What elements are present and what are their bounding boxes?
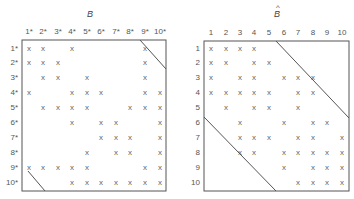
nonzero-entry: x [238,73,242,82]
nonzero-entry: x [158,163,162,172]
row-label: 1 [196,44,201,53]
nonzero-entry: x [267,58,271,67]
nonzero-entry: x [238,88,242,97]
nonzero-entry: x [267,103,271,112]
nonzero-entry: x [158,178,162,187]
nonzero-entry: x [56,103,60,112]
nonzero-entry: x [282,118,286,127]
nonzero-entry: x [70,44,74,53]
nonzero-entry: x [267,133,271,142]
nonzero-entry: x [70,88,74,97]
nonzero-entry: x [311,133,315,142]
nonzero-entry: x [85,148,89,157]
column-label: 6* [97,27,105,36]
column-label: 7* [112,27,120,36]
nonzero-entry: x [296,73,300,82]
row-label: 9 [196,163,201,172]
nonzero-entry: x [41,163,45,172]
nonzero-entry: x [252,103,256,112]
nonzero-entry: x [238,118,242,127]
row-label: 5 [196,103,201,112]
nonzero-entry: x [85,103,89,112]
nonzero-entry: x [128,103,132,112]
nonzero-entry: x [325,178,329,187]
row-label: 2* [10,58,18,67]
matrix-b: B1*2*3*4*5*6*7*8*9*10*1*2*3*4*5*6*7*8*9*… [6,9,166,191]
nonzero-entry: x [99,133,103,142]
nonzero-entry: x [311,148,315,157]
nonzero-entry: x [143,88,147,97]
nonzero-entry: x [128,148,132,157]
nonzero-entry: x [224,44,228,53]
matrix-title: B [87,9,93,19]
nonzero-entry: x [238,133,242,142]
row-label: 7* [10,133,18,142]
band-boundary-line [28,171,45,191]
nonzero-entry: x [282,73,286,82]
nonzero-entry: x [311,118,315,127]
nonzero-entry: x [224,103,228,112]
nonzero-entry: x [224,58,228,67]
row-label: 3 [196,73,201,82]
hat-accent: ^ [276,3,280,12]
nonzero-entry: x [325,148,329,157]
column-label: 4* [68,27,76,36]
nonzero-entry: x [70,103,74,112]
nonzero-entry: x [41,44,45,53]
nonzero-entry: x [114,118,118,127]
nonzero-entry: x [209,73,213,82]
row-label: 3* [10,73,18,82]
nonzero-entry: x [99,118,103,127]
column-label: 3 [238,28,243,37]
row-label: 1* [10,44,18,53]
row-label: 10 [191,178,200,187]
nonzero-entry: x [296,103,300,112]
nonzero-entry: x [128,133,132,142]
nonzero-entry: x [252,88,256,97]
nonzero-entry: x [158,103,162,112]
nonzero-entry: x [70,163,74,172]
nonzero-entry: x [143,163,147,172]
row-label: 6* [10,118,18,127]
row-label: 5* [10,103,18,112]
nonzero-entry: x [85,178,89,187]
nonzero-entry: x [296,133,300,142]
nonzero-entry: x [282,148,286,157]
nonzero-entry: x [267,88,271,97]
column-label: 10* [154,27,166,36]
column-label: 3* [54,27,62,36]
row-label: 7 [196,133,201,142]
nonzero-entry: x [340,133,344,142]
nonzero-entry: x [340,163,344,172]
nonzero-entry: x [143,73,147,82]
row-label: 2 [196,58,201,67]
nonzero-entry: x [158,133,162,142]
nonzero-entry: x [85,73,89,82]
row-label: 8 [196,148,201,157]
nonzero-entry: x [85,88,89,97]
nonzero-entry: x [158,88,162,97]
nonzero-entry: x [56,58,60,67]
nonzero-entry: x [114,178,118,187]
column-label: 1* [25,27,33,36]
nonzero-entry: x [252,133,256,142]
nonzero-entry: x [114,148,118,157]
nonzero-entry: x [296,88,300,97]
nonzero-entry: x [311,163,315,172]
row-label: 8* [10,148,18,157]
nonzero-entry: x [114,133,118,142]
nonzero-entry: x [209,44,213,53]
nonzero-entry: x [99,88,103,97]
band-boundary-line [204,117,276,191]
nonzero-entry: x [41,58,45,67]
nonzero-entry: x [27,88,31,97]
nonzero-entry: x [238,44,242,53]
column-label: 7 [296,28,301,37]
nonzero-entry: x [282,163,286,172]
nonzero-entry: x [158,118,162,127]
nonzero-entry: x [209,88,213,97]
column-label: 1 [209,28,214,37]
nonzero-entry: x [128,178,132,187]
nonzero-entry: x [85,163,89,172]
nonzero-entry: x [325,163,329,172]
